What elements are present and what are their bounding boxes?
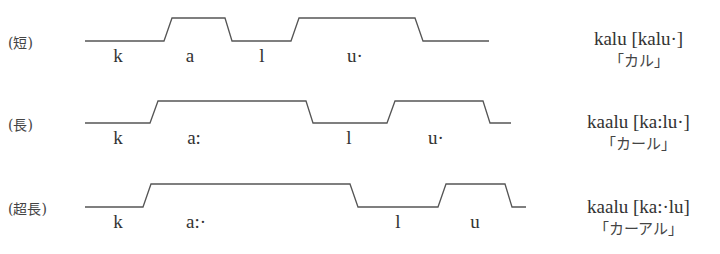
segment-label: k bbox=[113, 127, 123, 149]
romanization: kaalu [ka:·lu] bbox=[556, 196, 720, 218]
segment-label: u· bbox=[347, 45, 363, 67]
segment-label: a: bbox=[187, 127, 201, 149]
waveform-long bbox=[85, 101, 511, 123]
segment-label: l bbox=[259, 45, 264, 67]
segment-label: u· bbox=[428, 127, 444, 149]
segment-label: k bbox=[113, 211, 123, 233]
word-transcription: kalu [kalu·] 「カル」 bbox=[556, 28, 720, 70]
segment-label: l bbox=[395, 211, 400, 233]
segment-label: l bbox=[346, 127, 351, 149]
word-transcription: kaalu [ka:lu·] 「カール」 bbox=[556, 111, 720, 153]
segment-label: u bbox=[470, 211, 480, 233]
segment-label: a bbox=[186, 45, 194, 67]
row-label: (短) bbox=[8, 32, 33, 52]
row-label: (超長) bbox=[8, 198, 47, 218]
row-label: (長) bbox=[8, 114, 33, 134]
word-transcription: kaalu [ka:·lu] 「カーアル」 bbox=[556, 196, 720, 238]
waveform-short bbox=[85, 18, 489, 41]
kana-rendering: 「カーアル」 bbox=[556, 217, 720, 238]
segment-label: a:· bbox=[186, 211, 206, 233]
waveform-overlong bbox=[85, 184, 526, 207]
romanization: kalu [kalu·] bbox=[556, 28, 720, 50]
kana-rendering: 「カル」 bbox=[556, 49, 720, 70]
segment-label: k bbox=[113, 45, 123, 67]
romanization: kaalu [ka:lu·] bbox=[556, 111, 720, 133]
kana-rendering: 「カール」 bbox=[556, 132, 720, 153]
